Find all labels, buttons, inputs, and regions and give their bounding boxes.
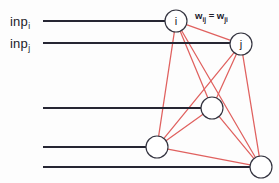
recurrent-edge-node-3-to-node-4 bbox=[166, 114, 203, 140]
neuron-node-5 bbox=[250, 156, 272, 178]
recurrent-edge-node-j-to-node-3 bbox=[217, 54, 237, 98]
recurrent-edge-node-3-to-node-5 bbox=[219, 116, 254, 158]
network-diagram-canvas: ij inpi inpj wij = wji bbox=[0, 0, 279, 183]
input-label-i: inpi bbox=[10, 14, 30, 29]
input-label-j: inpj bbox=[10, 36, 30, 51]
weight-equals-w: = w bbox=[206, 10, 224, 21]
recurrent-edge-node-4-to-node-5 bbox=[168, 149, 250, 165]
weight-sub-ij: ij bbox=[202, 16, 206, 23]
diagram-svg: ij bbox=[0, 0, 279, 183]
neuron-node-3 bbox=[201, 97, 223, 119]
weight-sub-ji: ji bbox=[224, 16, 228, 23]
recurrent-edge-node-i-to-node-j bbox=[186, 25, 230, 41]
input-label-i-base: inp bbox=[10, 14, 28, 29]
recurrent-edge-node-i-to-node-4 bbox=[159, 32, 175, 136]
input-label-j-base: inp bbox=[10, 36, 28, 51]
weight-symmetry-annotation: wij = wji bbox=[195, 10, 228, 21]
recurrent-edge-node-j-to-node-4 bbox=[164, 53, 234, 139]
neuron-node-4 bbox=[146, 136, 168, 158]
neuron-label-i: i bbox=[175, 15, 177, 27]
neuron-label-j: j bbox=[239, 38, 242, 50]
recurrent-edge-node-i-to-node-3 bbox=[180, 31, 208, 98]
